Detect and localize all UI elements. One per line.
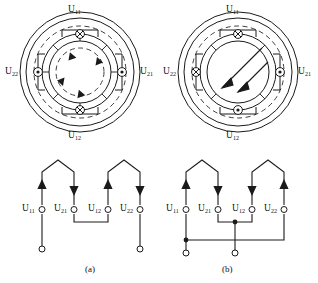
winding-arrows-b xyxy=(181,179,288,196)
caption-b: (b) xyxy=(222,264,233,274)
stator-a-label-bottom: U12 xyxy=(68,130,81,140)
stator-cross-section-a xyxy=(20,12,140,132)
stator-a-label-right: U21 xyxy=(140,66,153,76)
conductor-marker-cross-left-b xyxy=(192,68,201,77)
caption-a: (a) xyxy=(85,264,95,274)
stator-a-label-top: U11 xyxy=(68,4,81,14)
circuit-a-terminal-0-label: U11 xyxy=(22,203,35,213)
conductor-marker-cross-bottom xyxy=(76,106,85,115)
stator-b-label-bottom: U12 xyxy=(226,130,239,140)
conductor-marker-dot-left xyxy=(34,68,43,77)
stator-cross-section-b xyxy=(178,12,298,132)
diagram-canvas xyxy=(0,0,318,283)
stator-b-label-right: U21 xyxy=(298,66,311,76)
circuit-b-terminal-3-label: U22 xyxy=(264,203,277,213)
winding-arrows-a xyxy=(37,179,144,196)
junction-dots-b xyxy=(184,220,238,243)
conductor-marker-cross-top-b xyxy=(234,30,243,39)
conductor-marker-dot-right-b xyxy=(276,68,285,77)
stator-b-label-left: U22 xyxy=(163,66,176,76)
flux-loop-arrows-a xyxy=(57,51,103,98)
circuit-b-terminal-1-label: U21 xyxy=(198,203,211,213)
circuit-b-terminal-2-label: U12 xyxy=(232,203,245,213)
circuit-b-terminal-0-label: U11 xyxy=(166,203,179,213)
stator-b-label-top: U11 xyxy=(226,4,239,14)
conductor-marker-dot-bottom-b xyxy=(234,106,243,115)
stator-a-label-left: U22 xyxy=(5,66,18,76)
field-arrows-b xyxy=(222,48,268,92)
conductor-marker-dot-right xyxy=(118,68,127,77)
circuit-a-terminal-2-label: U12 xyxy=(88,203,101,213)
circuit-a-terminal-3-label: U22 xyxy=(120,203,133,213)
circuit-a-terminal-1-label: U21 xyxy=(54,203,67,213)
conductor-marker-cross-top xyxy=(76,30,85,39)
